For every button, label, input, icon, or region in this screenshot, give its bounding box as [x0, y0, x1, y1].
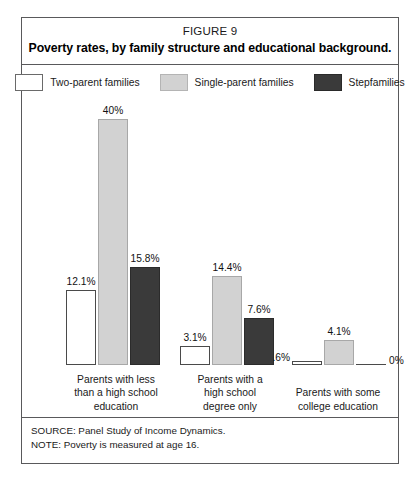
bar-value-two-parent-g1: 12.1%: [67, 276, 96, 288]
legend-swatch-gray-icon: [160, 74, 188, 91]
measurement-note: NOTE: Poverty is measured at age 16.: [31, 438, 390, 452]
bar-value-single-parent-g3: 4.1%: [327, 326, 350, 338]
figure-container: FIGURE 9 Poverty rates, by family struct…: [21, 17, 399, 464]
group-label-line-3: education: [56, 400, 176, 414]
legend-label-stepfamilies: Stepfamilies: [349, 77, 405, 88]
bar-rect-two-parent-g2: [180, 346, 210, 365]
group-label-line-1: Parents with less: [56, 373, 176, 387]
page-title: Poverty rates, by family structure and e…: [28, 40, 392, 57]
bar-rect-stepfamilies-g3: [356, 364, 386, 365]
bar-two-parent-g2: 3.1%: [180, 346, 210, 365]
bar-stepfamilies-g1: 15.8%: [130, 267, 160, 365]
bar-value-single-parent-g1: 40%: [103, 105, 123, 117]
group-label-line-2: than a high school: [56, 386, 176, 400]
group-label-less-than-high-school: Parents with less than a high school edu…: [56, 373, 176, 414]
bar-rect-single-parent-g3: [324, 340, 354, 365]
legend-label-two-parent: Two-parent families: [50, 77, 139, 88]
bar-value-stepfamilies-g1: 15.8%: [131, 253, 160, 265]
bar-value-stepfamilies-g3: 0%: [389, 355, 404, 367]
bar-rect-single-parent-g1: [98, 119, 128, 365]
bar-single-parent-g1: 40%: [98, 119, 128, 365]
bar-rect-single-parent-g2: [212, 276, 242, 365]
source-note: SOURCE: Panel Study of Income Dynamics.: [31, 424, 390, 438]
bar-single-parent-g3: 4.1%: [324, 340, 354, 365]
bar-rect-two-parent-g1: [66, 290, 96, 365]
group-label-high-school-degree: Parents with a high school degree only: [170, 373, 290, 414]
figure-number: FIGURE 9: [28, 24, 392, 39]
bar-group-high-school-degree: 3.1% 14.4% 7.6% Parents with a high scho…: [170, 99, 290, 417]
legend-item-single-parent: Single-parent families: [160, 74, 294, 91]
chart-legend: Two-parent families Single-parent famili…: [22, 65, 398, 99]
group-label-some-college: Parents with some college education: [278, 386, 398, 413]
legend-item-two-parent: Two-parent families: [15, 74, 139, 91]
legend-swatch-dark-icon: [314, 74, 342, 91]
chart-plot-area: 12.1% 40% 15.8% Parents with less than a…: [22, 99, 398, 417]
bar-group-some-college: .6% 4.1% 0% Parents with some college ed…: [278, 99, 398, 417]
legend-item-stepfamilies: Stepfamilies: [314, 74, 405, 91]
group-label-line-2: college education: [278, 400, 398, 414]
bar-value-two-parent-g2: 3.1%: [183, 332, 206, 344]
bar-rect-stepfamilies-g2: [244, 318, 274, 365]
bar-value-two-parent-g3: .6%: [272, 352, 290, 364]
group-label-line-3: degree only: [170, 400, 290, 414]
figure-footer: SOURCE: Panel Study of Income Dynamics. …: [22, 417, 398, 463]
bar-stepfamilies-g3: 0%: [356, 364, 386, 365]
figure-title-block: FIGURE 9 Poverty rates, by family struct…: [22, 18, 398, 65]
bar-group-less-than-high-school: 12.1% 40% 15.8% Parents with less than a…: [56, 99, 176, 417]
bar-single-parent-g2: 14.4%: [212, 276, 242, 365]
bar-rect-stepfamilies-g1: [130, 267, 160, 365]
group-label-line-2: high school: [170, 386, 290, 400]
group-label-line-1: Parents with some: [278, 386, 398, 400]
bar-value-single-parent-g2: 14.4%: [213, 262, 242, 274]
bar-two-parent-g1: 12.1%: [66, 290, 96, 365]
legend-swatch-white-icon: [15, 74, 43, 91]
bar-two-parent-g3: .6%: [292, 361, 322, 365]
bar-rect-two-parent-g3: [292, 361, 322, 365]
bar-value-stepfamilies-g2: 7.6%: [247, 304, 270, 316]
group-label-line-1: Parents with a: [170, 373, 290, 387]
bar-stepfamilies-g2: 7.6%: [244, 318, 274, 365]
legend-label-single-parent: Single-parent families: [195, 77, 294, 88]
